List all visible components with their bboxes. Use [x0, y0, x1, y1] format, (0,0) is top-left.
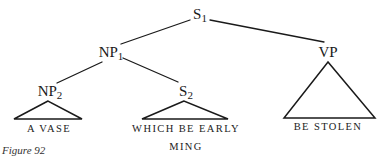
- edge-np1-s2: [123, 58, 178, 82]
- tree-edges: [0, 0, 388, 164]
- node-s2: S2: [179, 84, 193, 99]
- node-np1: NP1: [99, 45, 124, 60]
- node-np2: NP2: [38, 84, 63, 99]
- leaf-vp-text: BE STOLEN: [294, 122, 363, 133]
- node-s1-subscript: 1: [201, 12, 207, 24]
- triangle-np2: [14, 101, 82, 119]
- leaf-np2-text: A VASE: [27, 124, 71, 135]
- leaf-s2-text-line2: MING: [169, 142, 203, 153]
- node-s1: S1: [193, 7, 207, 22]
- node-np1-label: NP: [99, 44, 118, 60]
- triangle-s2: [142, 101, 228, 119]
- leaf-s2-text-line1: WHICH BE EARLY: [132, 124, 240, 135]
- node-vp-label: VP: [318, 44, 337, 60]
- node-vp: VP: [318, 45, 337, 60]
- edge-s1-vp: [210, 20, 324, 42]
- node-s2-subscript: 2: [187, 89, 193, 101]
- node-np2-label: NP: [38, 83, 57, 99]
- node-np1-subscript: 1: [118, 50, 124, 62]
- edge-np1-np2: [57, 62, 102, 83]
- figure-caption: Figure 92: [2, 144, 45, 156]
- node-np2-subscript: 2: [57, 89, 63, 101]
- triangle-vp: [284, 62, 375, 118]
- edge-s1-np1: [121, 20, 190, 44]
